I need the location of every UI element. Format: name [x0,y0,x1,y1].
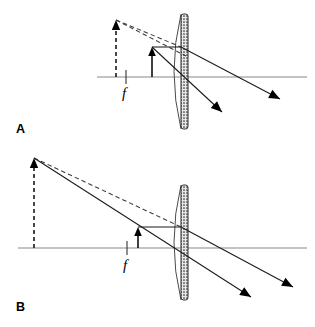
panel-A: fA [16,14,307,136]
lens-body [181,14,188,129]
lens-curved-face [174,185,181,300]
ray-arrowhead-2 [239,287,251,297]
focal-length-label: f [123,257,129,273]
ray-center-ray [34,158,251,297]
lens-curved-face [174,14,181,129]
focal-length-label: f [122,85,128,101]
ray-virtual-extension-upper [34,158,181,227]
panels-group: fAfB [16,14,307,314]
panel-label-B: B [16,300,25,314]
ray-arrowhead-1 [268,90,280,99]
ray-arrowhead-1 [281,278,293,287]
object-arrow-head [148,47,156,56]
panel-B: fB [16,158,307,314]
ray-refracted-parallel-ray [181,227,293,287]
panel-label-A: A [16,122,25,136]
object-arrow-head [134,227,142,236]
ray-virtual-extension-upper [116,20,181,47]
lens-body [181,185,188,300]
lens-ray-diagram-figure: fAfB [0,0,315,327]
diagram-canvas: fAfB [0,0,315,327]
ray-refracted-parallel-ray [181,47,280,99]
